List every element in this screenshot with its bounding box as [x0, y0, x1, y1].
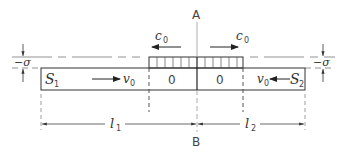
svg-text:c: c — [155, 29, 162, 43]
left-stress-label: −σ — [14, 56, 31, 69]
stress-level-line — [12, 57, 335, 68]
svg-text:2: 2 — [299, 80, 304, 89]
bar-impact-diagram: −σ −σ A B c 0 — [0, 0, 346, 153]
left-stress-dimension: −σ — [14, 44, 31, 82]
length-right-dimension: l 2 — [198, 116, 304, 133]
right-stress-label: −σ — [313, 56, 330, 69]
svg-text:l: l — [110, 116, 114, 131]
left-zone-value: 0 — [168, 73, 176, 87]
svg-text:0: 0 — [244, 36, 249, 45]
svg-text:0: 0 — [264, 79, 269, 88]
left-body: S 1 v 0 — [45, 71, 135, 89]
svg-text:0: 0 — [130, 79, 135, 88]
stress-zone — [149, 57, 243, 68]
svg-text:v: v — [257, 72, 264, 86]
right-body: v 0 S 2 — [257, 71, 304, 89]
left-wave-speed: c 0 — [152, 29, 181, 47]
right-stress-dimension: −σ — [313, 44, 330, 82]
svg-text:1: 1 — [54, 80, 59, 89]
svg-text:c: c — [236, 29, 243, 43]
svg-text:l: l — [245, 116, 249, 131]
svg-text:0: 0 — [163, 36, 168, 45]
point-b-label: B — [192, 135, 200, 149]
right-zone-value: 0 — [216, 73, 224, 87]
svg-text:2: 2 — [251, 124, 256, 133]
length-left-dimension: l 1 — [42, 116, 196, 133]
point-a-label: A — [192, 8, 201, 22]
svg-text:1: 1 — [116, 124, 121, 133]
svg-text:v: v — [123, 72, 130, 86]
right-wave-speed: c 0 — [210, 29, 249, 47]
